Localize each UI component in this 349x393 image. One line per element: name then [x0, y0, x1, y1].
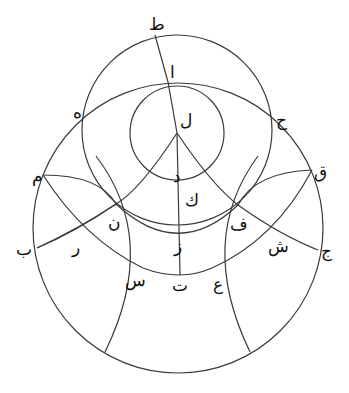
label-kaf: ك [185, 190, 199, 210]
label-dal: د [173, 166, 181, 186]
arc-left-sin [96, 156, 130, 352]
geometry-figure: ط ا ل ه ح م ق د ك ن ف ر ب ز ش ج س ت ع [0, 0, 349, 393]
label-mim: م [32, 166, 43, 187]
label-ha: ه [73, 102, 82, 122]
label-ra: ر [71, 237, 80, 258]
label-lam: ل [180, 110, 192, 130]
point-labels: ط ا ل ه ح م ق د ك ن ف ر ب ز ش ج س ت ع [16, 14, 332, 295]
arc-right-ayn [225, 156, 258, 352]
label-tha: ت [172, 275, 188, 295]
label-jim: ج [321, 241, 332, 262]
label-ba: ب [16, 239, 32, 259]
label-zay: ز [173, 236, 182, 257]
label-sin: س [125, 270, 146, 291]
diagram-canvas: ط ا ل ه ح م ق د ك ن ف ر ب ز ش ج س ت ع [0, 0, 349, 393]
label-shin: ش [268, 236, 289, 257]
label-nun: ن [108, 212, 120, 232]
label-haa: ح [276, 110, 287, 131]
label-qaf: ق [314, 162, 327, 182]
label-fa: ف [230, 214, 248, 234]
label-ayn: ع [213, 274, 223, 295]
label-ta: ط [149, 14, 165, 34]
label-alif: ا [170, 62, 175, 82]
arc-lam-ba [37, 133, 177, 248]
